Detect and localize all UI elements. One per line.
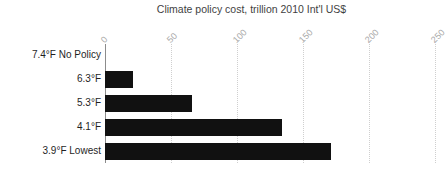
x-tick-label-50: 50 (165, 31, 179, 45)
x-tick-label-200: 200 (363, 27, 381, 45)
category-label: 7.4°F No Policy (1, 49, 101, 61)
bar (105, 119, 282, 136)
category-label: 5.3°F (1, 97, 101, 109)
x-tick-label-250: 250 (429, 27, 447, 45)
x-tick-label-150: 150 (297, 27, 315, 45)
bar-row (105, 95, 435, 112)
bar (105, 143, 331, 160)
category-label: 6.3°F (1, 73, 101, 85)
plot-area: 050100150200250 (105, 44, 435, 163)
bar (105, 71, 133, 88)
category-label: 4.1°F (1, 121, 101, 133)
x-tick-label-100: 100 (231, 27, 249, 45)
gridline-250 (435, 44, 436, 163)
bar (105, 95, 192, 112)
bar-row (105, 143, 435, 160)
bar-row (105, 119, 435, 136)
category-axis: 7.4°F No Policy6.3°F5.3°F4.1°F3.9°F Lowe… (0, 44, 101, 163)
bar-row (105, 71, 435, 88)
category-label: 3.9°F Lowest (1, 145, 101, 157)
chart-title: Climate policy cost, trillion 2010 Int'l… (0, 3, 443, 16)
bar-row (105, 47, 435, 64)
